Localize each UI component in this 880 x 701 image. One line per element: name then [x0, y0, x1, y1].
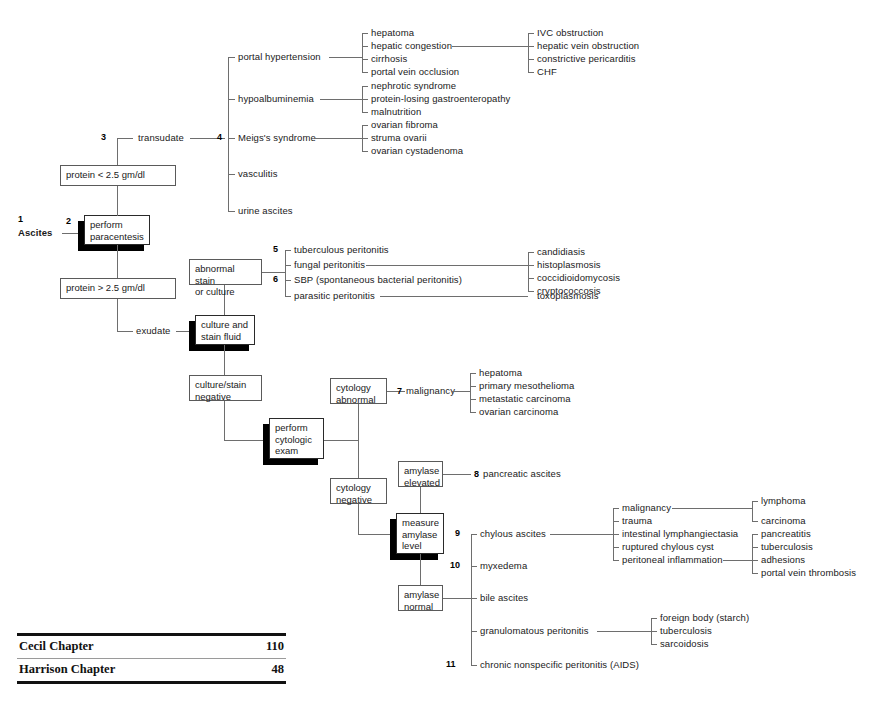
amn-tick-4: [471, 665, 477, 666]
reference-table: Cecil Chapter 110 Harrison Chapter 48: [17, 633, 286, 684]
table-row-name: Cecil Chapter: [19, 639, 94, 654]
mal-tick-3: [470, 412, 476, 413]
edge-amylase-elevated-to-pancreatic: [443, 474, 471, 475]
action-line-1: culture and: [201, 319, 249, 331]
cause-portal-hypertension: portal hypertension: [238, 52, 321, 62]
fungal-tick-0: [528, 252, 534, 253]
chy-tick-4: [613, 560, 619, 561]
cause-hypoalbuminemia: hypoalbuminemia: [238, 94, 314, 104]
edge-down-to-cytology-negative: [358, 440, 359, 478]
branch-label-pancreatic-ascites: pancreatic ascites: [483, 469, 561, 479]
sublist-peritoneal-spine: [752, 534, 753, 573]
state-protein-greater-2-5: protein > 2.5 gm/dl: [60, 278, 176, 299]
edge-paracentesis-down: [117, 245, 118, 278]
hypo-cause-0: nephrotic syndrome: [371, 81, 456, 91]
hypo-cause-1: protein-losing gastroenteropathy: [371, 94, 510, 104]
table-rule-bot: [17, 681, 286, 684]
state-amy-elev-line-1: amylase: [404, 465, 437, 477]
abn-branch-3: parasitic peritonitis: [294, 291, 375, 301]
gran-tick-2: [651, 644, 657, 645]
fan-tick-hypoalbuminemia: [228, 99, 235, 100]
state-abnormal-stain-or-culture: abnormal stain or culture: [189, 259, 262, 285]
edge-csneg-down: [224, 401, 225, 440]
hc-cause-1: hepatic vein obstruction: [537, 41, 639, 51]
amn-tick-3: [471, 631, 477, 632]
edge-chy-malignancy-to-list: [672, 508, 752, 509]
hc-tick-2: [528, 59, 534, 60]
state-amy-norm-line-1: amylase: [404, 589, 437, 601]
amn-branch-0: chylous ascites: [480, 529, 546, 539]
action-line-2: cytologic: [275, 434, 318, 446]
meigs-cause-1: struma ovarii: [371, 133, 427, 143]
mal-cause-3: ovarian carcinoma: [479, 407, 558, 417]
action-perform-paracentesis[interactable]: perform paracentesis: [84, 215, 150, 245]
per-tick-3: [752, 573, 758, 574]
action-line-2: paracentesis: [90, 231, 144, 243]
amn-tick-2: [471, 598, 477, 599]
gran-cause-1: tuberculosis: [660, 626, 712, 636]
state-protein-greater-2-5-label: protein > 2.5 gm/dl: [66, 282, 145, 293]
node-number-2: 2: [66, 216, 71, 226]
per-cause-2: adhesions: [761, 555, 805, 565]
sublist-tick-3: [362, 72, 368, 73]
edge-meigs-to-list: [314, 138, 362, 139]
per-tick-0: [752, 534, 758, 535]
node-number-10: 10: [450, 560, 460, 570]
action-line-2: amylase: [402, 529, 438, 541]
edge-chylous-to-list: [550, 534, 613, 535]
edge-amylase-normal-to-fan: [443, 598, 471, 599]
edge-culture-down-negative: [224, 345, 225, 375]
ph-cause-2: cirrhosis: [371, 54, 407, 64]
chymal-cause-1: carcinoma: [761, 516, 806, 526]
chy-cause-0: malignancy: [622, 503, 671, 513]
fan-amylase-normal-spine: [471, 534, 472, 665]
node-number-9: 9: [455, 528, 460, 538]
node-number-6: 6: [273, 274, 278, 284]
action-culture-and-stain-fluid[interactable]: culture and stain fluid: [195, 315, 255, 345]
hc-tick-1: [528, 46, 534, 47]
edge-abnormal-to-fan: [262, 272, 285, 273]
sublist-malignancy-spine: [470, 373, 471, 412]
action-perform-cytologic-exam[interactable]: perform cytologic exam: [269, 418, 324, 459]
per-tick-2: [752, 560, 758, 561]
hc-cause-3: CHF: [537, 67, 557, 77]
gran-tick-0: [651, 618, 657, 619]
edge-cytology-abnormal-to-malignancy: [387, 391, 405, 392]
branch-label-transudate: transudate: [138, 133, 184, 143]
chy-cause-4: peritoneal inflammation: [622, 555, 723, 565]
action-measure-amylase-level[interactable]: measure amylase level: [396, 513, 444, 554]
amn-branch-3: granulomatous peritonitis: [480, 626, 589, 636]
state-amy-norm-line-2: normal: [404, 601, 437, 613]
fan-tick-urine-ascites: [228, 211, 235, 212]
ph-cause-3: portal vein occlusion: [371, 67, 459, 77]
hc-tick-0: [528, 33, 534, 34]
state-cyt-neg-line-1: cytology: [336, 482, 381, 494]
chymal-cause-0: lymphoma: [761, 496, 806, 506]
meigs-tick-1: [362, 138, 368, 139]
table-row-value: 110: [266, 639, 284, 654]
chy-cause-1: trauma: [622, 516, 652, 526]
abn-tick-0: [285, 250, 291, 251]
action-line-3: level: [402, 540, 438, 552]
chy-tick-2: [613, 534, 619, 535]
edge-peritoneal-inflammation-to-list: [723, 560, 752, 561]
state-protein-less-2-5: protein < 2.5 gm/dl: [60, 165, 176, 186]
hypo-cause-2: malnutrition: [371, 107, 421, 117]
table-row-name: Harrison Chapter: [19, 662, 115, 677]
state-abnormal-line-2: or culture: [195, 286, 256, 298]
state-cs-neg-line-2: negative: [195, 391, 256, 403]
chymal-tick-0: [752, 501, 758, 502]
node-number-11: 11: [446, 659, 456, 669]
mal-tick-2: [470, 399, 476, 400]
state-amy-elev-line-2: elevated: [404, 477, 437, 489]
gran-tick-1: [651, 631, 657, 632]
action-perform-paracentesis-face: perform paracentesis: [84, 215, 150, 245]
edge-cytologic-exam-right: [324, 440, 358, 441]
node-number-8: 8: [474, 469, 479, 479]
root-label-ascites: Ascites: [18, 228, 53, 238]
action-line-1: measure: [402, 517, 438, 529]
abn-tick-2: [285, 280, 291, 281]
state-cytology-negative: cytology negative: [330, 478, 387, 504]
state-abnormal-line-1: abnormal stain: [195, 263, 256, 286]
action-line-3: exam: [275, 445, 318, 457]
